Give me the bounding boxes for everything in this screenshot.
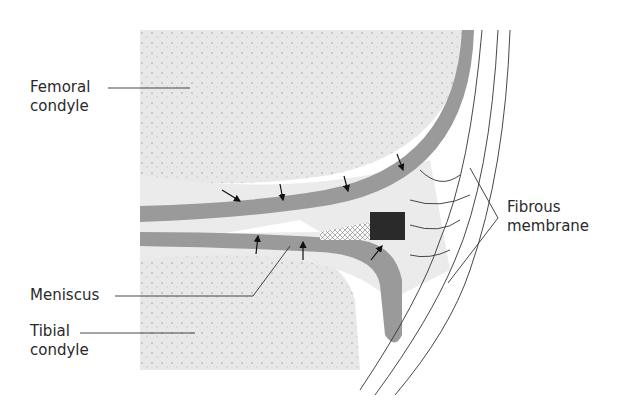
label-meniscus: Meniscus bbox=[30, 286, 99, 305]
meniscus-dark bbox=[370, 212, 405, 240]
label-fibrous-membrane: Fibrousmembrane bbox=[507, 198, 589, 236]
label-tibial-condyle: Tibialcondyle bbox=[30, 322, 89, 360]
label-femoral-condyle: Femoralcondyle bbox=[30, 78, 90, 116]
